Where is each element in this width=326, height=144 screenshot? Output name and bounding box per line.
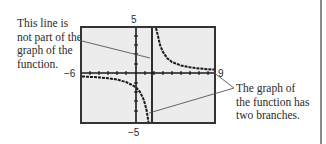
- page-edge-rule: [320, 0, 322, 144]
- callout-line-right-upper: [213, 72, 234, 88]
- graph-plot: [0, 0, 326, 144]
- calculator-screen: [81, 27, 215, 123]
